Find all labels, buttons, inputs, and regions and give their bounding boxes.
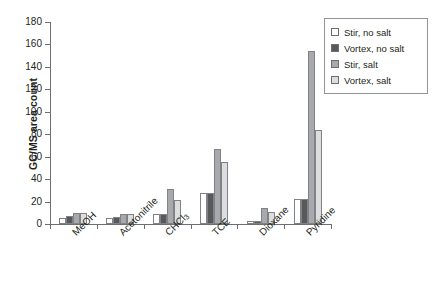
y-axis-tick-label: 80 [31,127,42,140]
legend-swatch-icon [331,60,339,68]
bar-pyridine-series-1 [301,199,308,224]
y-axis-tick-label: 180 [25,15,42,28]
y-axis-tick-label: 60 [31,150,42,163]
legend-item-label: Stir, no salt [344,27,391,38]
legend-item-label: Vortex, salt [344,75,391,86]
y-axis-tick-label: 100 [25,105,42,118]
legend-item: Stir, no salt [331,24,422,40]
legend-item-label: Stir, salt [344,59,378,70]
y-axis-tick-label: 20 [31,195,42,208]
bar-pyridine-series-2 [308,51,315,224]
bar-meoh-series-1 [66,216,73,224]
bar-tce-series-2 [214,149,221,224]
bar-pyridine-series-0 [294,199,301,224]
x-axis-tick [97,224,98,229]
legend-item: Stir, salt [331,56,422,72]
legend-swatch-icon [331,44,339,52]
gcms-area-count-bar-chart: GC/MS area count 02040608010012014016018… [0,0,436,289]
y-axis-tick-label: 120 [25,82,42,95]
y-axis-tick-label: 40 [31,172,42,185]
legend-item: Vortex, no salt [331,40,422,56]
bar-chcl3-series-0 [153,214,160,224]
bar-meoh-series-0 [59,218,66,224]
x-axis-tick [237,224,238,229]
bar-acetonitrile-series-0 [106,218,113,224]
bar-dioxane-series-0 [247,221,254,224]
bar-tce-series-1 [207,193,214,224]
plot-area: 020406080100120140160180 [50,22,331,224]
bars-layer [50,22,331,224]
x-axis-tick [50,224,51,229]
chart-legend: Stir, no salt Vortex, no salt Stir, salt… [324,18,428,94]
bar-tce-series-0 [200,193,207,224]
bar-pyridine-series-3 [315,130,322,224]
bar-dioxane-series-1 [254,221,261,224]
x-axis-tick [331,224,332,229]
y-axis-tick-label: 160 [25,37,42,50]
legend-swatch-icon [331,76,339,84]
x-axis-tick [144,224,145,229]
legend-swatch-icon [331,28,339,36]
y-axis-tick-label: 0 [36,217,42,230]
x-axis-tick [284,224,285,229]
bar-chcl3-series-1 [160,214,167,224]
x-axis-tick [191,224,192,229]
legend-item-label: Vortex, no salt [344,43,404,54]
bar-acetonitrile-series-1 [113,217,120,224]
legend-item: Vortex, salt [331,72,422,88]
bar-tce-series-3 [221,162,228,224]
y-axis-tick-label: 140 [25,60,42,73]
